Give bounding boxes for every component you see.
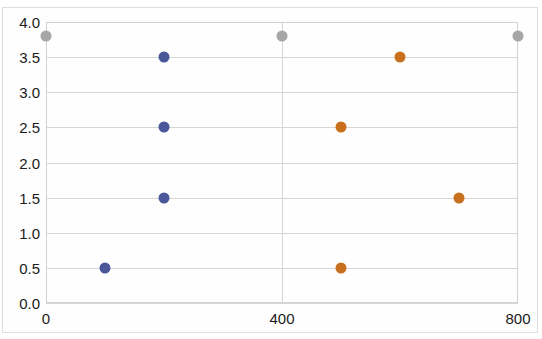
chart-screenshot: 0.00.51.01.52.02.53.03.54.0 0400800 — [0, 0, 542, 339]
y-axis-tick-label: 1.5 — [0, 189, 40, 206]
scatter-chart: 0.00.51.01.52.02.53.03.54.0 0400800 — [0, 0, 542, 339]
y-axis-tick-label: 0.0 — [0, 295, 40, 312]
data-point-orange — [395, 52, 406, 63]
y-axis-tick-label: 2.5 — [0, 119, 40, 136]
data-point-blue — [100, 262, 111, 273]
gridline-horizontal — [46, 303, 518, 304]
y-axis-tick-label: 4.0 — [0, 14, 40, 31]
data-point-orange — [454, 192, 465, 203]
data-point-gray — [41, 31, 52, 42]
y-axis-tick-label: 3.0 — [0, 84, 40, 101]
data-point-orange — [336, 122, 347, 133]
y-axis-tick-label: 0.5 — [0, 259, 40, 276]
x-axis-tick-label: 400 — [269, 310, 294, 327]
data-point-blue — [159, 122, 170, 133]
x-axis-tick-label: 800 — [505, 310, 530, 327]
plot-area — [46, 22, 518, 303]
data-point-orange — [336, 262, 347, 273]
y-axis-tick-label: 2.0 — [0, 154, 40, 171]
data-point-gray — [277, 31, 288, 42]
x-axis-tick-label: 0 — [42, 310, 50, 327]
data-point-blue — [159, 52, 170, 63]
data-point-gray — [513, 31, 524, 42]
data-point-blue — [159, 192, 170, 203]
y-axis-tick-label: 3.5 — [0, 49, 40, 66]
y-axis-tick-label: 1.0 — [0, 224, 40, 241]
